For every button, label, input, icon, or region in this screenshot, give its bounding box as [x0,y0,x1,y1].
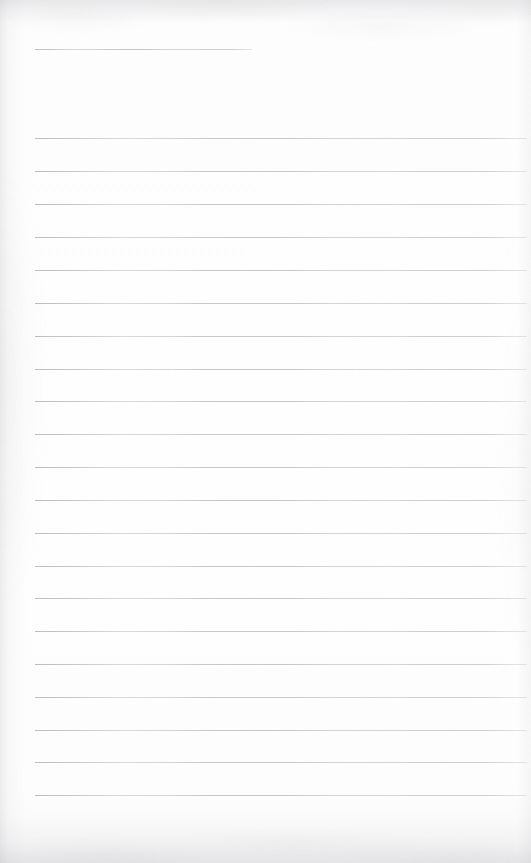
rule-line [35,401,527,402]
rule-line [35,533,527,534]
rule-line [35,237,527,238]
rule-line [35,434,527,435]
rule-line [35,171,527,172]
rule-line [35,795,527,796]
rule-line [35,270,527,271]
rule-line [35,762,527,763]
rule-line [35,500,527,501]
rule-line [35,631,527,632]
rule-line [35,303,527,304]
rule-line [35,138,527,139]
scanned-page [0,0,531,863]
rule-line [35,566,527,567]
rule-line [35,664,527,665]
header-rule-line [35,49,252,50]
rule-line [35,598,527,599]
rule-line [35,467,527,468]
rule-line [35,336,527,337]
rule-line [35,730,527,731]
ruled-lines-layer [0,0,531,863]
rule-line [35,697,527,698]
rule-line [35,369,527,370]
rule-line [35,204,527,205]
